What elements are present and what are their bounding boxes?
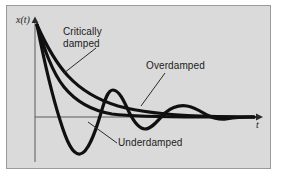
annotation-critically-damped: Critically damped: [63, 26, 102, 49]
y-axis-label: x(t): [16, 14, 30, 25]
leader-line-critically-damped: [64, 48, 96, 73]
x-axis-label: t: [256, 119, 259, 130]
annotation-underdamped: Underdamped: [118, 137, 182, 149]
plot-canvas: [0, 0, 285, 179]
annotation-overdamped: Overdamped: [146, 60, 205, 72]
y-axis: [32, 17, 39, 163]
figure-container: x(t) t Critically damped Overdamped Unde…: [0, 0, 285, 179]
leader-line-overdamped: [141, 73, 165, 106]
